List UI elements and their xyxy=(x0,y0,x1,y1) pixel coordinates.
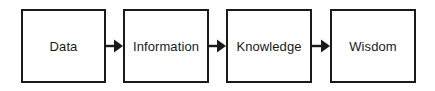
node-label: Wisdom xyxy=(349,40,397,53)
diagram-node-wisdom: Wisdom xyxy=(330,9,416,83)
node-label: Data xyxy=(50,40,78,53)
node-label: Knowledge xyxy=(236,40,301,53)
node-label: Information xyxy=(133,40,199,53)
arrow-right-icon-data-to-information xyxy=(106,37,123,55)
arrow-right-icon-information-to-knowledge xyxy=(209,37,226,55)
dikw-flow-diagram: Data Information Knowledge Wisdom xyxy=(0,0,435,91)
diagram-node-information: Information xyxy=(123,9,209,83)
diagram-node-data: Data xyxy=(21,9,106,83)
arrow-right-icon-knowledge-to-wisdom xyxy=(312,37,330,55)
diagram-node-knowledge: Knowledge xyxy=(226,9,312,83)
